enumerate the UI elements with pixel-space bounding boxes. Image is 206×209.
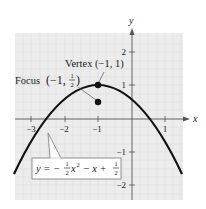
svg-text:Focus: Focus — [15, 75, 40, 86]
y-axis-label: y — [128, 15, 134, 26]
x-tick-label: −1 — [92, 124, 102, 134]
svg-text:2: 2 — [114, 169, 117, 176]
focus-point — [95, 99, 101, 105]
svg-text:− x +: − x + — [80, 163, 109, 174]
svg-text:): ) — [76, 73, 80, 87]
svg-text:y = −: y = − — [35, 163, 60, 174]
x-axis-arrow-icon — [183, 117, 190, 122]
y-tick-label: −1 — [116, 147, 126, 157]
svg-text:2: 2 — [65, 169, 68, 176]
vertex-point — [95, 82, 101, 88]
x-axis-label: x — [192, 113, 198, 124]
x-tick-label: 1 — [163, 124, 168, 134]
focus-label: Focus (−1, 1 2 ) — [15, 72, 80, 88]
y-tick-label: 2 — [122, 47, 127, 57]
vertex-label: Vertex (−1, 1) — [65, 58, 124, 70]
y-tick-label: 1 — [122, 80, 127, 90]
svg-text:x: x — [70, 163, 76, 174]
x-tick-label: −2 — [59, 124, 69, 134]
equation-box: y = − 1 2 x 2 − x + 1 2 — [32, 158, 121, 179]
svg-text:1: 1 — [114, 160, 117, 167]
y-axis-arrow-icon — [130, 28, 135, 35]
svg-text:(−1,: (−1, — [46, 73, 66, 87]
parabola-figure: x −3 −2 −1 1 y 2 1 −1 −2 — [0, 0, 206, 209]
svg-text:1: 1 — [65, 160, 68, 167]
x-tick-label: −3 — [26, 124, 36, 134]
svg-text:2: 2 — [70, 81, 73, 88]
y-tick-label: −2 — [116, 180, 126, 190]
svg-text:1: 1 — [70, 72, 73, 79]
